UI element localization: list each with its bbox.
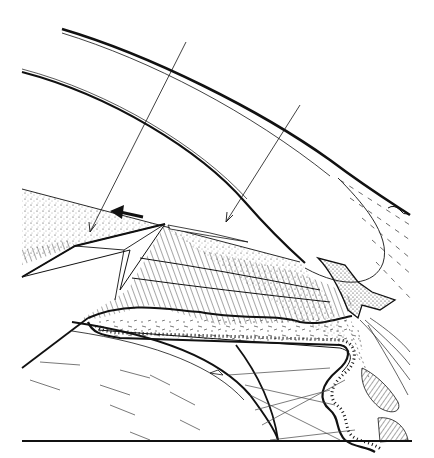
- eye-anatomy-figure: [0, 0, 434, 458]
- iris-anterior-border: [22, 318, 88, 368]
- pointer-line-right: [226, 105, 300, 222]
- pointer-line-left: [89, 42, 186, 232]
- zonular-fibers: [228, 368, 355, 440]
